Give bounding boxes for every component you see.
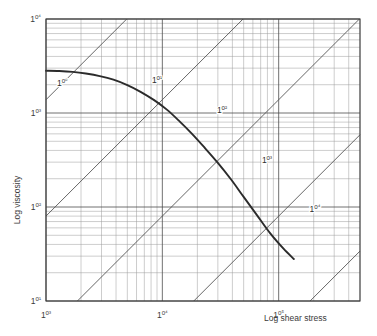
diagonal-label: 10⁴ xyxy=(310,203,321,214)
diagonal-line-labels: 10⁰10¹10²10³10⁴ xyxy=(57,74,321,214)
axis-tick-label: 10¹ xyxy=(31,295,41,306)
viscosity-flow-curve xyxy=(46,71,294,259)
plot-frame xyxy=(46,19,360,301)
axis-tick-label: 10³ xyxy=(31,107,41,118)
diagonal-label: 10⁰ xyxy=(57,77,68,88)
axis-tick-label: 10⁴ xyxy=(157,309,168,320)
x-axis-tick-labels: 10³10⁴10⁵ xyxy=(41,309,285,320)
major-gridlines xyxy=(46,19,360,301)
y-axis-tick-labels: 10¹10²10³10⁴ xyxy=(30,13,41,306)
minor-gridlines xyxy=(46,19,360,301)
axis-tick-label: 10² xyxy=(31,201,41,212)
shear-rate-diagonal-lines xyxy=(46,19,360,301)
axis-tick-label: 10³ xyxy=(41,309,51,320)
axis-tick-label: 10⁴ xyxy=(30,13,41,24)
chart-figure: 10⁰10¹10²10³10⁴ 10³10⁴10⁵ 10¹10²10³10⁴ L… xyxy=(0,0,377,336)
chart-svg: 10⁰10¹10²10³10⁴ 10³10⁴10⁵ 10¹10²10³10⁴ L… xyxy=(0,0,377,336)
x-axis-title: Log shear stress xyxy=(264,313,327,323)
y-axis-title: Log viscosity xyxy=(12,175,22,224)
diagonal-label: 10³ xyxy=(262,154,272,165)
